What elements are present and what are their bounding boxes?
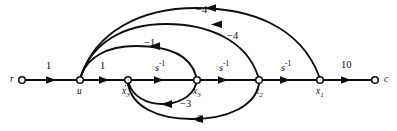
node-label-x1-sub: 1 — [320, 91, 324, 99]
edge-label-x3-to-u: −1 — [144, 38, 155, 49]
edge-label-r-to-u: 1 — [46, 61, 51, 72]
node-xdot3 — [125, 77, 132, 84]
node-u — [77, 77, 84, 84]
node-label-xdot3-sub: 3 — [126, 91, 130, 99]
edge-label-x2-to-x1: s-1 — [281, 60, 291, 73]
node-label-x2: x2 — [255, 87, 263, 99]
node-label-x3: x3 — [193, 87, 201, 99]
node-x2 — [256, 77, 263, 84]
node-label-xdot3: x3 — [122, 87, 130, 99]
arrowhead-x1-to-c — [341, 76, 351, 83]
node-label-r: r — [10, 75, 14, 85]
node-label-x1: x1 — [316, 87, 324, 99]
node-label-u: u — [77, 87, 82, 97]
edge-label-x1-to-u: −4 — [196, 5, 207, 16]
node-r — [19, 77, 26, 84]
arrowhead-x2-to-u — [211, 20, 222, 28]
node-label-c: c — [384, 75, 388, 85]
graph-canvas — [0, 0, 397, 131]
node-x1 — [317, 77, 324, 84]
arrowhead-u-to-xdot3 — [99, 76, 109, 83]
edge-label-x2-to-u: −4 — [227, 31, 238, 42]
arrowhead-xdot3-to-x3 — [154, 76, 164, 83]
node-label-x3-sub: 3 — [197, 91, 201, 99]
edge-label-x2-to-xdot3: −2 — [191, 114, 202, 125]
edge-label-x3-to-x2-exp: -1 — [223, 59, 229, 68]
dot-accent-xdot3 — [125, 85, 127, 87]
arrowhead-x2-to-x1 — [280, 76, 290, 83]
node-label-x2-sub: 2 — [259, 91, 263, 99]
node-x3 — [194, 77, 201, 84]
edge-label-x3-to-x2: s-1 — [219, 60, 229, 73]
edge-label-x3-to-xdot3: −3 — [180, 99, 191, 110]
arrowhead-r-to-u — [46, 76, 56, 83]
edge-label-xdot3-to-x3: s-1 — [155, 60, 165, 73]
edge-label-xdot3-to-x3-exp: -1 — [159, 59, 165, 68]
node-c — [372, 77, 379, 84]
edge-label-x2-to-x1-exp: -1 — [285, 59, 291, 68]
arrowhead-x3-to-x2 — [218, 76, 228, 83]
arrowhead-x3-to-xdot3 — [161, 100, 172, 108]
edge-label-x1-to-c: 10 — [341, 60, 352, 71]
edge-x3-to-u — [81, 46, 196, 76]
signal-flow-graph-figure: r u x3 x3 x2 x1 c 1 1 s-1 s-1 s-1 10 −4 … — [0, 0, 397, 131]
edge-label-u-to-xdot3: 1 — [100, 61, 105, 72]
